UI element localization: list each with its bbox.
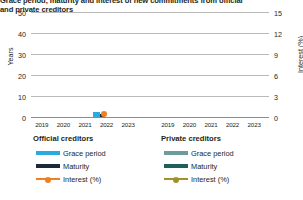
chart-legend: Official creditors Grace period Maturity	[0, 134, 303, 200]
gridline-10	[31, 96, 269, 97]
legend-item-private-grace-period: Grace period	[161, 147, 289, 160]
chart-figure: Grace period, maturity and interest of n…	[0, 0, 303, 200]
legend-item-official-grace-period: Grace period	[33, 147, 161, 160]
x-tick-private-2021: 2021	[200, 121, 222, 131]
legend-item-official-maturity: Maturity	[33, 160, 161, 173]
bar-official-grace-2022	[93, 112, 100, 117]
legend-swatch-private-maturity	[161, 160, 191, 173]
right-axis-tick-12: 12	[274, 30, 298, 39]
legend-swatch-official-maturity	[33, 160, 63, 173]
right-axis-tick-3: 3	[274, 93, 298, 102]
legend-private-title: Private creditors	[161, 134, 289, 143]
left-axis-tick-40: 40	[2, 30, 26, 39]
left-axis-tick-50: 50	[2, 9, 26, 18]
right-axis-tick-15: 15	[274, 9, 298, 18]
x-tick-official-2022: 2022	[96, 121, 118, 131]
x-tick-official-2023: 2023	[117, 121, 139, 131]
legend-label-private-interest: Interest (%)	[191, 173, 229, 186]
legend-private-creditors: Private creditors Grace period Maturity	[161, 134, 289, 186]
plot-area	[31, 12, 269, 120]
gridline-30	[31, 54, 269, 55]
x-axis-group-private: 2019 2020 2021 2022 2023	[157, 121, 265, 131]
left-axis-tick-20: 20	[2, 72, 26, 81]
gridline-40	[31, 33, 269, 34]
x-tick-official-2019: 2019	[31, 121, 53, 131]
legend-label-official-grace-period: Grace period	[63, 147, 106, 160]
x-axis-labels: 2019 2020 2021 2022 2023 2019 2020 2021 …	[31, 121, 269, 131]
legend-item-private-interest: Interest (%)	[161, 173, 289, 186]
legend-label-private-maturity: Maturity	[191, 160, 217, 173]
gridline-20	[31, 75, 269, 76]
left-axis-tick-10: 10	[2, 93, 26, 102]
axis-baseline	[31, 117, 269, 118]
legend-item-official-interest: Interest (%)	[33, 173, 161, 186]
x-tick-private-2022: 2022	[222, 121, 244, 131]
x-tick-private-2023: 2023	[243, 121, 265, 131]
legend-label-private-grace-period: Grace period	[191, 147, 234, 160]
x-axis-group-official: 2019 2020 2021 2022 2023	[31, 121, 139, 131]
left-axis-tick-30: 30	[2, 51, 26, 60]
legend-official-title: Official creditors	[33, 134, 161, 143]
right-axis-tick-9: 9	[274, 51, 298, 60]
x-tick-private-2020: 2020	[179, 121, 201, 131]
x-tick-official-2020: 2020	[53, 121, 75, 131]
x-tick-official-2021: 2021	[74, 121, 96, 131]
legend-swatch-official-interest	[33, 173, 63, 186]
legend-item-private-maturity: Maturity	[161, 160, 289, 173]
legend-swatch-private-grace-period	[161, 147, 191, 160]
x-tick-private-2019: 2019	[157, 121, 179, 131]
legend-swatch-official-grace-period	[33, 147, 63, 160]
left-axis-tick-0: 0	[2, 114, 26, 123]
legend-label-official-maturity: Maturity	[63, 160, 89, 173]
marker-official-interest-2022	[101, 111, 107, 117]
legend-label-official-interest: Interest (%)	[63, 173, 101, 186]
legend-official-creditors: Official creditors Grace period Maturity	[33, 134, 161, 186]
gridline-50	[31, 12, 269, 13]
right-axis-tick-0: 0	[274, 114, 298, 123]
right-axis-tick-6: 6	[274, 72, 298, 81]
legend-swatch-private-interest	[161, 173, 191, 186]
